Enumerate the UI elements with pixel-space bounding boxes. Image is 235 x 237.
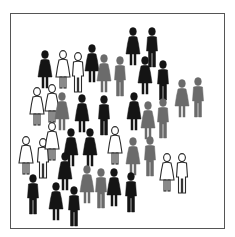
person-pants-gray-icon <box>141 136 159 178</box>
person-dress-white-icon <box>106 126 124 168</box>
person-pants-black-icon <box>65 186 83 228</box>
person-pants-gray-icon <box>189 77 207 119</box>
person-pants-black-icon <box>24 174 42 216</box>
person-dress-black-icon <box>105 168 123 210</box>
person-dress-black-icon <box>47 182 65 224</box>
person-pants-black-icon <box>122 172 140 214</box>
person-dress-white-icon <box>17 136 35 178</box>
person-pants-white-icon <box>173 153 191 195</box>
person-pants-black-icon <box>154 60 172 102</box>
person-dress-black-icon <box>81 128 99 170</box>
person-pants-gray-icon <box>154 98 172 140</box>
